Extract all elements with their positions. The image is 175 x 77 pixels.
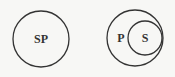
euler-diagram: SP P S xyxy=(0,0,175,77)
label-p: P xyxy=(117,31,124,45)
circle-p xyxy=(107,10,163,66)
figure-identity: SP xyxy=(13,11,69,67)
figure-subset: P S xyxy=(107,10,163,66)
label-s: S xyxy=(142,31,149,45)
label-sp: SP xyxy=(34,32,48,46)
